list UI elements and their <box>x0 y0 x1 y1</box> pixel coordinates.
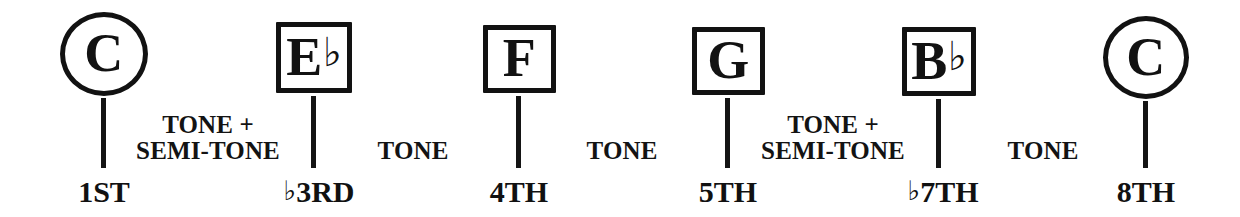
degree-text: 5TH <box>699 175 757 208</box>
interval-line-1: TONE <box>1008 138 1079 164</box>
interval-label-c-to-eflat: TONE + SEMI-TONE <box>136 112 280 163</box>
stem-g <box>725 98 730 168</box>
stem-b-flat <box>936 99 941 168</box>
interval-line-1: TONE <box>378 138 449 164</box>
degree-label-1st: 1ST <box>78 177 130 207</box>
degree-text: 1ST <box>78 175 130 208</box>
note-letter: G <box>707 33 748 87</box>
stem-f <box>516 96 521 168</box>
degree-text: 4TH <box>490 175 548 208</box>
note-letter: B <box>911 34 946 88</box>
stem-e-flat <box>311 96 316 168</box>
interval-line-2: SEMI-TONE <box>761 138 905 164</box>
stem-c-octave <box>1143 101 1148 168</box>
note-head-e-flat: E♭ <box>276 22 352 93</box>
note-head-b-flat: B♭ <box>902 27 976 96</box>
note-accidental: ♭ <box>948 36 967 76</box>
note-letter: C <box>84 26 122 80</box>
flat-sign: ♭ <box>907 177 920 204</box>
interval-line-2: SEMI-TONE <box>136 138 280 164</box>
note-head-c-root: C <box>60 12 148 96</box>
flat-sign: ♭ <box>283 177 296 204</box>
degree-text: 7TH <box>920 175 978 208</box>
degree-label-4th: 4TH <box>490 177 548 207</box>
note-letter: F <box>503 31 535 85</box>
interval-label-eflat-to-f: TONE <box>378 138 449 164</box>
degree-label-flat-3rd: ♭3RD <box>283 177 354 207</box>
note-head-c-octave: C <box>1103 16 1189 99</box>
interval-line-1: TONE <box>587 138 658 164</box>
stem-c-root <box>101 98 106 168</box>
interval-label-g-to-bflat: TONE + SEMI-TONE <box>761 112 905 163</box>
note-letter: C <box>1126 30 1164 84</box>
interval-label-bflat-to-c: TONE <box>1008 138 1079 164</box>
degree-label-5th: 5TH <box>699 177 757 207</box>
interval-line-1: TONE + <box>136 112 280 138</box>
note-head-f: F <box>483 25 556 93</box>
degree-text: 8TH <box>1117 175 1175 208</box>
degree-label-8th: 8TH <box>1117 177 1175 207</box>
interval-line-1: TONE + <box>761 112 905 138</box>
note-accidental: ♭ <box>323 32 342 72</box>
note-head-g: G <box>692 27 765 95</box>
note-letter: E <box>286 30 321 84</box>
interval-label-f-to-g: TONE <box>587 138 658 164</box>
degree-text: 3RD <box>296 175 354 208</box>
degree-label-flat-7th: ♭7TH <box>907 177 978 207</box>
pentatonic-scale-diagram: C E♭ F G B♭ C TONE + SEMI-TONE TONE TONE… <box>0 0 1240 217</box>
